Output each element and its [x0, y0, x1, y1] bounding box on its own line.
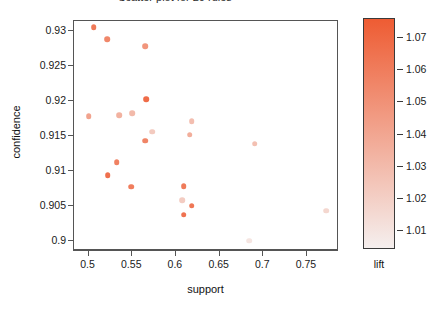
lift-colorbar-legend: 1.011.021.031.041.051.061.07 lift — [362, 18, 446, 308]
data-point — [143, 138, 149, 144]
colorbar-tick-label: 1.07 — [406, 31, 426, 43]
colorbar-tick-label: 1.03 — [406, 160, 426, 172]
colorbar-tick — [397, 101, 403, 102]
x-axis-line — [73, 250, 338, 251]
data-point — [150, 129, 156, 135]
colorbar-tick — [397, 134, 403, 135]
x-axis-tick-label: 0.65 — [208, 258, 228, 270]
x-axis-tick — [88, 251, 89, 256]
data-points-layer — [74, 21, 337, 249]
data-point — [187, 132, 193, 138]
data-point — [247, 238, 253, 244]
data-point — [104, 36, 110, 42]
colorbar-gradient — [363, 18, 395, 249]
data-point — [189, 119, 195, 125]
x-axis-tick-label: 0.55 — [121, 258, 141, 270]
colorbar-tick-label: 1.02 — [406, 192, 426, 204]
x-axis-tick-label: 0.7 — [255, 258, 270, 270]
y-axis-tick — [68, 170, 73, 171]
colorbar-tick — [397, 37, 403, 38]
x-axis-tick-label: 0.6 — [168, 258, 183, 270]
colorbar-tick-label: 1.01 — [406, 224, 426, 236]
y-axis-tick-label: 0.925 — [40, 59, 66, 71]
y-axis-title: confidence — [10, 77, 22, 187]
data-point — [91, 24, 97, 30]
data-point — [116, 112, 122, 118]
data-point — [181, 183, 187, 189]
data-point — [252, 141, 258, 147]
x-axis-tick — [306, 251, 307, 256]
x-axis-tick-label: 0.75 — [296, 258, 316, 270]
data-point — [86, 114, 92, 120]
y-axis-tick — [68, 240, 73, 241]
data-point — [189, 203, 195, 209]
x-axis-tick-label: 0.5 — [80, 258, 95, 270]
y-axis-line — [73, 20, 74, 251]
y-axis-tick-label: 0.915 — [40, 129, 66, 141]
colorbar-tick — [397, 230, 403, 231]
data-point — [143, 43, 149, 49]
scatter-plot-figure: Scatter plot for 20 rules 0.50.550.60.65… — [0, 0, 446, 314]
data-point — [143, 96, 149, 102]
data-point — [129, 110, 135, 116]
colorbar-tick — [397, 166, 403, 167]
y-axis-tick-label: 0.905 — [40, 199, 66, 211]
colorbar-tick-label: 1.06 — [406, 63, 426, 75]
y-axis-tick — [68, 30, 73, 31]
x-axis-tick — [219, 251, 220, 256]
y-axis-tick — [68, 65, 73, 66]
y-axis-tick — [68, 100, 73, 101]
data-point — [105, 172, 111, 178]
x-axis-tick — [262, 251, 263, 256]
colorbar-tick-label: 1.04 — [406, 128, 426, 140]
x-axis-title: support — [73, 283, 338, 295]
y-axis-tick-label: 0.93 — [46, 24, 66, 36]
data-point — [181, 212, 187, 218]
y-axis-tick — [68, 205, 73, 206]
y-axis-tick-label: 0.9 — [51, 234, 66, 246]
colorbar-tick-label: 1.05 — [406, 95, 426, 107]
y-axis-tick — [68, 135, 73, 136]
data-point — [114, 160, 120, 166]
x-axis-tick — [175, 251, 176, 256]
plot-panel — [73, 20, 338, 250]
colorbar-tick — [397, 69, 403, 70]
data-point — [323, 208, 329, 214]
data-point — [179, 197, 185, 203]
colorbar-title: lift — [362, 258, 396, 270]
y-axis-tick-label: 0.92 — [46, 94, 66, 106]
y-axis-tick-label: 0.91 — [46, 164, 66, 176]
colorbar-tick — [397, 198, 403, 199]
x-axis-tick — [131, 251, 132, 256]
data-point — [129, 184, 135, 190]
